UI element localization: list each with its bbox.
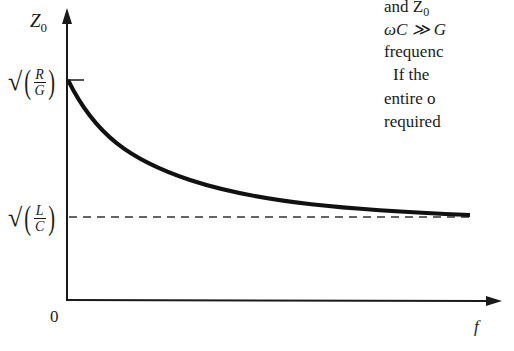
body-text-line5: entire o bbox=[384, 90, 435, 107]
body-text-line2: ωC ≫ G bbox=[384, 21, 446, 38]
body-text-line6: required bbox=[384, 113, 441, 130]
tick-label-rg: √( RG ) bbox=[8, 63, 57, 101]
origin-label: 0 bbox=[50, 308, 59, 325]
tick-label-lc: √( LC ) bbox=[8, 199, 57, 237]
figure: Z0 √( RG ) √( LC ) 0 f and Z0 ωC ≫ G fre… bbox=[0, 0, 514, 351]
body-text-line4: If the bbox=[393, 66, 429, 83]
body-text-line3: frequenc bbox=[384, 43, 443, 60]
x-axis-arrow-icon bbox=[486, 296, 502, 306]
x-axis bbox=[66, 300, 488, 301]
y-axis-arrow-icon bbox=[62, 8, 72, 24]
body-text-line1: and Z0 bbox=[384, 0, 429, 21]
x-axis-label: f bbox=[474, 318, 479, 335]
y-axis-label: Z0 bbox=[30, 12, 47, 36]
